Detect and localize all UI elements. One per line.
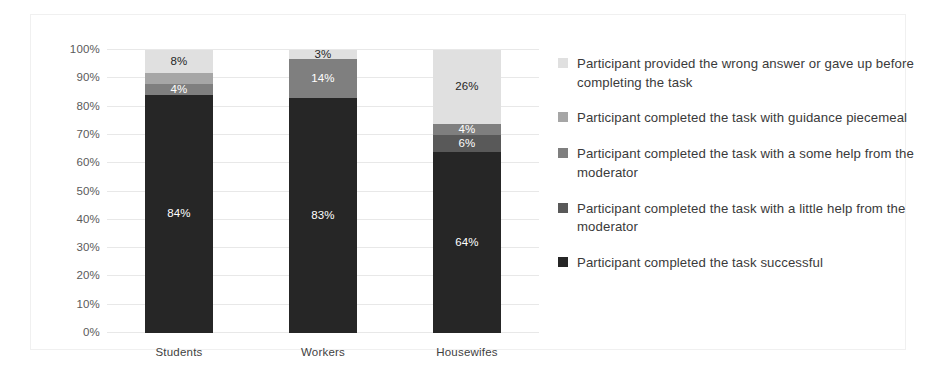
y-axis-tick-label: 10% (76, 298, 100, 310)
bar-segment-value-label: 26% (455, 81, 479, 93)
x-axis-category-label: Students (155, 346, 202, 358)
chart-frame: 0%10%20%30%40%50%60%70%80%90%100% 84%4%8… (30, 14, 906, 350)
bar-segment-value-label: 4% (170, 84, 187, 96)
bar-segment-value-label: 3% (314, 49, 331, 61)
bar-segment[interactable]: 14% (289, 59, 357, 99)
bar-stack-workers[interactable]: 83%14%3%Workers (289, 50, 357, 333)
legend-item-4[interactable]: Participant completed the task successfu… (558, 254, 930, 273)
bar-segment[interactable]: 4% (145, 84, 213, 95)
legend-item-1[interactable]: Participant completed the task with guid… (558, 109, 930, 128)
legend-swatch-icon (558, 112, 568, 122)
bar-segment-value-label: 84% (167, 208, 191, 220)
bar-segment[interactable]: 6% (433, 135, 501, 152)
bar-segment[interactable]: 84% (145, 95, 213, 333)
legend-swatch-icon (558, 257, 568, 267)
legend-label: Participant provided the wrong answer or… (577, 55, 930, 92)
bar-segment[interactable]: 83% (289, 98, 357, 333)
bar-segment-value-label: 4% (458, 124, 475, 136)
y-axis-tick-label: 90% (76, 71, 100, 83)
y-axis-tick-label: 20% (76, 269, 100, 281)
y-axis-tick-label: 30% (76, 241, 100, 253)
bar-stack-students[interactable]: 84%4%8%Students (145, 50, 213, 333)
legend-label: Participant completed the task with guid… (577, 109, 907, 128)
bar-segment[interactable]: 26% (433, 50, 501, 124)
y-axis-tick-label: 60% (76, 156, 100, 168)
bar-segment-value-label: 6% (458, 138, 475, 150)
chart-legend: Participant provided the wrong answer or… (558, 55, 930, 290)
chart-screenshot: 0%10%20%30%40%50%60%70%80%90%100% 84%4%8… (0, 0, 935, 365)
y-axis-tick-label: 100% (70, 43, 100, 55)
plot-area: 0%10%20%30%40%50%60%70%80%90%100% 84%4%8… (107, 50, 539, 333)
bar-segment[interactable]: 4% (433, 124, 501, 135)
y-axis-tick-label: 80% (76, 100, 100, 112)
y-axis-tick-label: 40% (76, 213, 100, 225)
bar-segment[interactable]: 64% (433, 152, 501, 333)
legend-item-2[interactable]: Participant completed the task with a so… (558, 145, 930, 182)
y-axis-tick-label: 0% (83, 326, 100, 338)
bar-stack-housewifes[interactable]: 64%6%4%26%Housewifes (433, 50, 501, 333)
legend-swatch-icon (558, 58, 568, 68)
x-axis-category-label: Workers (301, 346, 345, 358)
bar-segment[interactable]: 8% (145, 50, 213, 73)
bar-segment-value-label: 8% (170, 56, 187, 68)
legend-swatch-icon (558, 148, 568, 158)
legend-item-0[interactable]: Participant provided the wrong answer or… (558, 55, 930, 92)
y-axis-tick-label: 70% (76, 128, 100, 140)
legend-swatch-icon (558, 203, 568, 213)
bar-segment-value-label: 64% (455, 237, 479, 249)
bar-segment-value-label: 14% (311, 73, 335, 85)
legend-label: Participant completed the task with a li… (577, 200, 930, 237)
legend-label: Participant completed the task successfu… (577, 254, 823, 273)
x-axis-category-label: Housewifes (436, 346, 497, 358)
legend-label: Participant completed the task with a so… (577, 145, 930, 182)
y-axis-tick-label: 50% (76, 185, 100, 197)
bar-segment[interactable]: 3% (289, 50, 357, 58)
legend-item-3[interactable]: Participant completed the task with a li… (558, 200, 930, 237)
bar-segment-value-label: 83% (311, 210, 335, 222)
